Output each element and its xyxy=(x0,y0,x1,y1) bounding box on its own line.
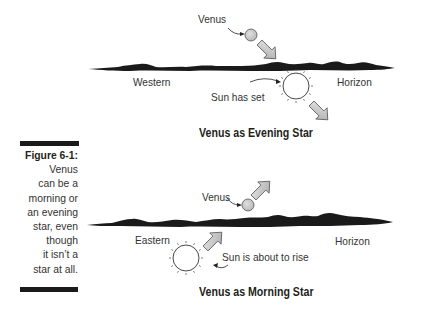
caption-line: though xyxy=(11,233,78,247)
venus-evening-pointer-icon xyxy=(228,28,245,36)
caption-line: it isn’t a xyxy=(11,247,78,261)
caption-line: Venus xyxy=(11,162,78,176)
sun-set-label: Sun has set xyxy=(211,92,264,104)
caption-line: an evening xyxy=(11,205,78,219)
sun-rise-arrow-icon xyxy=(200,227,228,255)
venus-morning-label: Venus xyxy=(202,192,230,204)
sun-set-arrow-icon xyxy=(306,98,334,126)
caption-bottom-rule xyxy=(20,287,78,292)
western-horizon-label: Western xyxy=(133,77,170,89)
venus-morning-icon xyxy=(242,199,254,211)
caption-line: star at all. xyxy=(11,262,78,276)
sun-rise-label: Sun is about to rise xyxy=(222,252,309,264)
western-horizon-line xyxy=(88,62,395,71)
venus-morning-arrow-icon xyxy=(248,176,276,204)
caption-line: can be a xyxy=(11,176,78,190)
sun-rise-pointer-icon xyxy=(213,263,228,268)
sun-set-pointer-icon xyxy=(250,79,281,84)
figure-number: Figure 6-1: xyxy=(11,148,78,162)
morning-star-title: Venus as Morning Star xyxy=(199,286,314,299)
morning-horizon-label: Horizon xyxy=(335,236,370,248)
sun-rise-icon xyxy=(169,241,203,275)
venus-evening-icon xyxy=(245,29,257,41)
evening-star-title: Venus as Evening Star xyxy=(199,127,313,140)
eastern-horizon-label: Eastern xyxy=(135,235,170,247)
eastern-horizon-line xyxy=(87,213,393,227)
caption-line: morning or xyxy=(11,191,78,205)
evening-horizon-label: Horizon xyxy=(337,77,372,89)
caption-top-rule xyxy=(20,141,79,146)
caption-line: star, even xyxy=(11,219,78,233)
figure-caption: Figure 6-1: Venus can be a morning or an… xyxy=(11,148,78,276)
venus-evening-label: Venus xyxy=(198,14,226,26)
venus-evening-arrow-icon xyxy=(254,37,282,65)
sun-set-icon xyxy=(279,69,313,103)
